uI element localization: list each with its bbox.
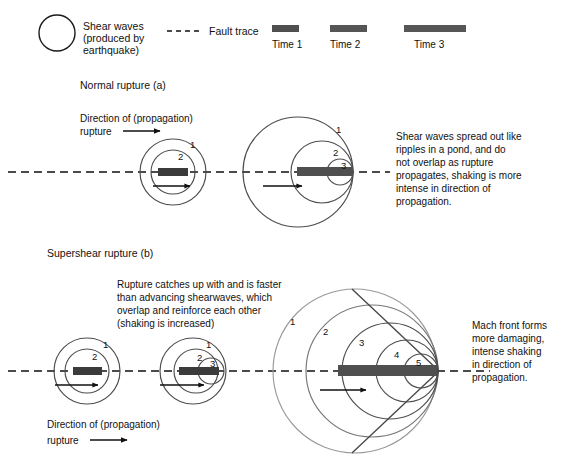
wave-number-3: 3 — [341, 160, 346, 171]
legend-fault-trace-label: Fault trace — [209, 25, 259, 37]
panel-b-direction-line2: rupture — [47, 435, 79, 446]
time-3-label: Time 3 — [414, 39, 445, 50]
wave-number-3: 3 — [210, 358, 215, 369]
wave-number-1: 1 — [206, 339, 211, 350]
wave-number-1: 1 — [190, 139, 195, 150]
panel-a-annotation-line-5: intense in direction of — [396, 183, 491, 194]
panel-a-annotation-line-2: ripples in a pond, and do — [396, 144, 506, 155]
wave-number-2: 2 — [323, 326, 328, 337]
fault-bar-segment — [338, 365, 437, 376]
panel-supershear-rupture: Supershear rupture (b) Rupture catches u… — [8, 247, 547, 453]
panel-b-annotation-top-line-2: than advancing shearwaves, which — [117, 292, 272, 303]
wave-number-2: 2 — [333, 147, 338, 158]
panel-normal-rupture: Normal rupture (a) Direction of (propaga… — [8, 79, 522, 227]
wave-number-2: 2 — [92, 351, 97, 362]
time-1-label: Time 1 — [272, 39, 303, 50]
wave-number-1: 1 — [290, 316, 295, 327]
panel-a-direction-line1: Direction of (propagation) — [80, 113, 193, 124]
wave-number-1: 1 — [336, 124, 341, 135]
wave-number-1: 1 — [103, 339, 108, 350]
panel-a-annotation-line-6: propagation. — [396, 196, 452, 207]
panel-b-annotation-right-line-4: in direction of — [472, 359, 532, 370]
wave-number-4: 4 — [394, 349, 399, 360]
panel-a-annotation: Shear waves spread out like ripples in a… — [396, 131, 522, 207]
wave-number-3: 3 — [359, 337, 364, 348]
panel-b-annotation-right: Mach front forms more damaging, intense … — [472, 320, 547, 383]
panel-b-annotation-top-line-1: Rupture catches up with and is faster — [117, 279, 282, 290]
panel-a-title: Normal rupture (a) — [80, 79, 166, 91]
panel-b-annotation-top-line-3: overlap and reinforce each other — [117, 305, 262, 316]
panel-a-direction-label: Direction of (propagation) rupture — [80, 113, 193, 137]
circle-outline-icon — [39, 15, 75, 51]
legend: Shear waves (produced by earthquake) Fau… — [39, 15, 466, 56]
panel-b-direction-label: Direction of (propagation) rupture — [47, 419, 160, 446]
panel-b-annotation-right-line-2: more damaging, — [472, 333, 544, 344]
fault-bar-segment — [158, 168, 188, 176]
time-1-swatch — [272, 25, 299, 32]
panel-b-annotation-top: Rupture catches up with and is faster th… — [117, 279, 282, 329]
legend-time-swatches: Time 1 Time 2 Time 3 — [272, 25, 466, 50]
panel-a-annotation-line-1: Shear waves spread out like — [396, 131, 522, 142]
legend-shear-waves: Shear waves (produced by earthquake) — [39, 15, 145, 56]
rupture-propagation-diagram: Shear waves (produced by earthquake) Fau… — [0, 0, 570, 463]
time-2-swatch — [330, 25, 367, 32]
legend-shear-waves-line1: Shear waves — [83, 20, 144, 32]
legend-shear-waves-line2: (produced by — [83, 32, 145, 44]
panel-a-direction-line2: rupture — [80, 126, 112, 137]
time-3-swatch — [404, 25, 466, 32]
fault-bar-segment — [73, 367, 102, 375]
wave-number-2: 2 — [197, 352, 202, 363]
legend-shear-waves-line3: earthquake) — [83, 44, 139, 56]
time-2-label: Time 2 — [330, 39, 361, 50]
panel-b-title: Supershear rupture (b) — [47, 247, 153, 259]
legend-fault-trace: Fault trace — [167, 25, 259, 37]
panel-a-annotation-line-3: not overlap as rupture — [396, 157, 494, 168]
panel-b-annotation-right-line-1: Mach front forms — [472, 320, 547, 331]
panel-b-annotation-right-line-5: propagation. — [472, 372, 528, 383]
panel-b-annotation-top-line-4: (shaking is increased) — [117, 318, 214, 329]
panel-b-annotation-right-line-3: intense shaking — [472, 346, 542, 357]
figure-root: Shear waves (produced by earthquake) Fau… — [0, 0, 570, 463]
panel-a-annotation-line-4: propagates, shaking is more — [396, 170, 522, 181]
wave-number-2: 2 — [178, 151, 183, 162]
wave-number-5: 5 — [416, 357, 421, 368]
panel-b-direction-line1: Direction of (propagation) — [47, 419, 160, 430]
